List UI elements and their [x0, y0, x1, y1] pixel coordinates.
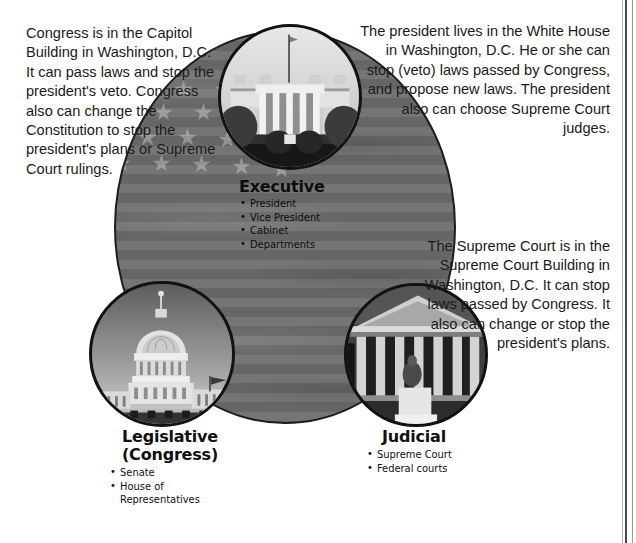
judicial-title: Judicial	[358, 428, 508, 446]
branch-caption-legislative: Legislative (Congress) Senate House of R…	[95, 428, 245, 507]
supreme-court-description: The Supreme Court is in the Supreme Cour…	[424, 237, 610, 353]
judicial-member-list: Supreme Court Federal courts	[366, 448, 508, 475]
branch-caption-executive: Executive President Vice President Cabin…	[239, 178, 325, 251]
congress-description: Congress is in the Capitol Building in W…	[26, 24, 222, 179]
list-item: Departments	[239, 238, 325, 252]
white-house-photo	[218, 24, 362, 170]
legislative-member-list: Senate House of Representatives	[109, 466, 245, 507]
legislative-title: Legislative (Congress)	[95, 428, 245, 464]
legislative-title-line2: (Congress)	[122, 445, 218, 464]
list-item: House of Representatives	[109, 480, 245, 507]
page-edge-line-main	[625, 0, 627, 543]
list-item: Cabinet	[239, 224, 325, 238]
page-edge-line-outer	[622, 0, 623, 543]
diagram-page: Executive President Vice President Cabin…	[0, 0, 636, 543]
list-item: Supreme Court	[366, 448, 508, 462]
page-edge-line-inner	[632, 0, 633, 543]
president-description: The president lives in the White House i…	[356, 22, 610, 138]
list-item: Senate	[109, 466, 245, 480]
branch-caption-judicial: Judicial Supreme Court Federal courts	[358, 428, 508, 475]
capitol-building-photo	[89, 281, 235, 427]
executive-title: Executive	[239, 178, 325, 195]
list-item: Vice President	[239, 211, 325, 225]
list-item: President	[239, 197, 325, 211]
executive-member-list: President Vice President Cabinet Departm…	[239, 197, 325, 251]
legislative-title-line1: Legislative	[122, 427, 218, 446]
list-item: Federal courts	[366, 462, 508, 476]
